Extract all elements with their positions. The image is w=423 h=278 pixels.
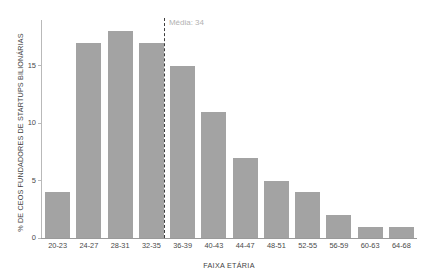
- bar-32-35[interactable]: [139, 43, 164, 238]
- y-tick-5: 5: [19, 176, 41, 186]
- x-axis-line: [41, 238, 417, 239]
- x-tick-label-32-35: 32-35: [136, 241, 167, 250]
- bar-slot: [355, 20, 386, 238]
- bar-chart: % DE CEOS FUNDADORES DE STARTUPS BILIONÁ…: [0, 0, 423, 278]
- mean-line: [164, 18, 165, 238]
- x-axis-title: FAIXA ETÁRIA: [41, 261, 417, 270]
- y-tick-mark: [38, 180, 42, 181]
- bar-slot: [323, 20, 354, 238]
- x-axis-ticks: 20-2324-2728-3132-3536-3940-4344-4748-51…: [41, 241, 417, 253]
- x-tick-label-36-39: 36-39: [167, 241, 198, 250]
- x-tick-label-44-47: 44-47: [230, 241, 261, 250]
- bar-20-23[interactable]: [45, 192, 70, 238]
- bar-slot: [292, 20, 323, 238]
- bar-slot: [198, 20, 229, 238]
- x-tick-label-64-68: 64-68: [386, 241, 417, 250]
- bar-52-55[interactable]: [295, 192, 320, 238]
- bar-24-27[interactable]: [76, 43, 101, 238]
- bar-44-47[interactable]: [233, 158, 258, 238]
- bar-60-63[interactable]: [358, 227, 383, 238]
- y-tick-0: 0: [19, 233, 41, 243]
- bar-40-43[interactable]: [201, 112, 226, 238]
- bar-slot: [230, 20, 261, 238]
- bar-slot: [42, 20, 73, 238]
- x-tick-label-56-59: 56-59: [323, 241, 354, 250]
- x-tick-label-52-55: 52-55: [292, 241, 323, 250]
- bar-48-51[interactable]: [264, 181, 289, 238]
- x-tick-label-24-27: 24-27: [73, 241, 104, 250]
- bar-series: [42, 20, 417, 238]
- bar-28-31[interactable]: [108, 31, 133, 238]
- y-axis-title: % DE CEOS FUNDADORES DE STARTUPS BILIONÁ…: [16, 18, 25, 248]
- bar-56-59[interactable]: [326, 215, 351, 238]
- x-tick-label-48-51: 48-51: [261, 241, 292, 250]
- mean-line-label: Média: 34: [164, 18, 204, 27]
- bar-slot: [261, 20, 292, 238]
- x-tick-label-20-23: 20-23: [42, 241, 73, 250]
- bar-slot: [167, 20, 198, 238]
- plot-area: 051015 Média: 34: [41, 20, 417, 238]
- x-tick-label-40-43: 40-43: [198, 241, 229, 250]
- bar-slot: [105, 20, 136, 238]
- bar-slot: [73, 20, 104, 238]
- y-tick-mark: [38, 123, 42, 124]
- y-tick-mark: [38, 65, 42, 66]
- bar-slot: [136, 20, 167, 238]
- y-tick-10: 10: [19, 118, 41, 128]
- bar-slot: [386, 20, 417, 238]
- x-tick-label-60-63: 60-63: [355, 241, 386, 250]
- bar-36-39[interactable]: [170, 66, 195, 238]
- bar-64-68[interactable]: [389, 227, 414, 238]
- y-tick-mark: [38, 238, 42, 239]
- y-tick-15: 15: [19, 61, 41, 71]
- x-tick-label-28-31: 28-31: [105, 241, 136, 250]
